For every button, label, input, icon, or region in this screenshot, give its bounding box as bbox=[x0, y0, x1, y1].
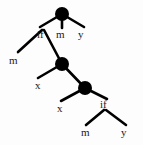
tree-leaf-label-lbl-x-2: x bbox=[57, 103, 63, 114]
tree-leaf-label-lbl-m-3: m bbox=[81, 127, 90, 138]
tree-leaf-label-lbl-m-2: m bbox=[9, 55, 18, 66]
tree-node-n2 bbox=[55, 57, 69, 71]
tree-diagram: ifmymxxifmy bbox=[0, 0, 143, 145]
tree-leaf-label-lbl-y-2: y bbox=[121, 127, 127, 138]
tree-node-n1 bbox=[55, 7, 69, 21]
tree-leaf-label-lbl-x-1: x bbox=[35, 80, 41, 91]
tree-node-n3 bbox=[78, 81, 92, 95]
tree-leaf-label-lbl-m-1: m bbox=[56, 29, 65, 40]
tree-leaf-label-lbl-if-1: if bbox=[37, 29, 44, 40]
tree-edge-if2-left bbox=[86, 110, 104, 125]
tree-graphics bbox=[0, 0, 143, 145]
tree-edge-if2-right bbox=[106, 110, 126, 125]
edges-group bbox=[18, 14, 126, 125]
tree-leaf-label-lbl-y-1: y bbox=[78, 29, 84, 40]
tree-leaf-label-lbl-if-2: if bbox=[100, 99, 107, 110]
